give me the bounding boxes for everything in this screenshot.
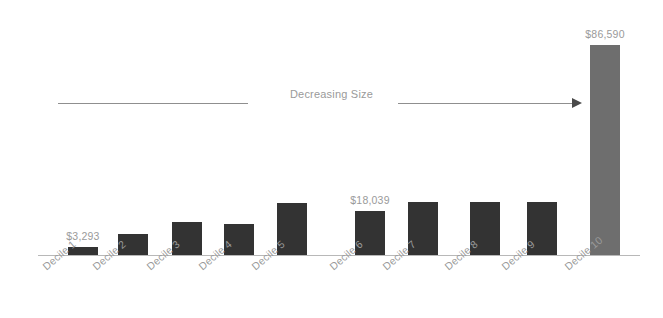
value-label-decile-10: $86,590 <box>567 28 643 40</box>
bar-chart: Decreasing Size $3,293$18,039$86,590 Dec… <box>0 0 663 318</box>
x-axis-tick-labels: Decile 1Decile 2Decile 3Decile 4Decile 5… <box>0 255 663 318</box>
plot-area: $3,293$18,039$86,590 <box>0 0 663 256</box>
value-label-decile-6: $18,039 <box>332 194 408 206</box>
